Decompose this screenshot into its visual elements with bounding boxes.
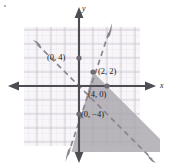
graph-figure: (0, 4) (2, 2) (4, 0) (0, −4) y x <box>0 0 172 165</box>
point-label-4-0: (4, 0) <box>88 90 106 99</box>
scan-speck <box>4 5 6 7</box>
point-label-2-2: (2, 2) <box>98 67 116 76</box>
dashed-line-arrow-lower-left <box>66 146 72 162</box>
dashed-line-arrow-lower-right <box>148 155 157 164</box>
point-2-2 <box>90 69 95 74</box>
point-0-4 <box>76 55 81 60</box>
coordinate-plane-svg <box>0 0 172 165</box>
x-axis-label: x <box>160 82 164 90</box>
point-label-0-4: (0, 4) <box>47 53 65 62</box>
point-label-0-minus4: (0, −4) <box>81 110 104 119</box>
y-axis-label: y <box>82 5 86 13</box>
point-4-0 <box>104 83 109 88</box>
